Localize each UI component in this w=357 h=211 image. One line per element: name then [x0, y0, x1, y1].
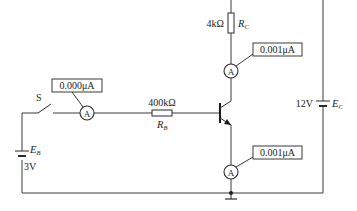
ammeter-emitter-leader	[236, 157, 253, 167]
ammeter-collector-symbol: A	[228, 67, 235, 77]
resistor-rc-icon	[228, 13, 234, 33]
ammeter-base-leader	[72, 92, 83, 107]
ec-voltage: 12V	[296, 98, 314, 109]
ammeter-base-symbol: A	[84, 109, 91, 119]
eb-voltage: 3V	[24, 161, 37, 172]
rb-value: 400kΩ	[148, 97, 175, 108]
rb-label: RB	[156, 119, 167, 131]
rc-label: RC	[237, 18, 249, 30]
eb-label: EB	[29, 144, 40, 156]
switch-icon[interactable]	[38, 104, 51, 113]
ammeter-base-reading: 0.000μA	[59, 80, 95, 91]
ammeter-collector-leader	[236, 54, 253, 66]
ammeter-emitter-symbol: A	[228, 168, 235, 178]
resistor-rb-icon	[152, 110, 172, 116]
ammeter-collector-reading: 0.001μA	[260, 44, 296, 55]
ec-label: EC	[331, 98, 343, 110]
switch-label: S	[36, 92, 42, 103]
circuit-diagram: EB 3V S A 0.000μA 400kΩ RB 4kΩ RC A 0.00…	[0, 0, 357, 211]
ammeter-emitter-reading: 0.001μA	[260, 147, 296, 158]
ground-icon	[225, 193, 237, 199]
npn-transistor-icon	[220, 101, 231, 125]
battery-ec-icon	[316, 101, 330, 106]
battery-eb-icon	[15, 150, 29, 156]
rc-value: 4kΩ	[207, 18, 224, 29]
